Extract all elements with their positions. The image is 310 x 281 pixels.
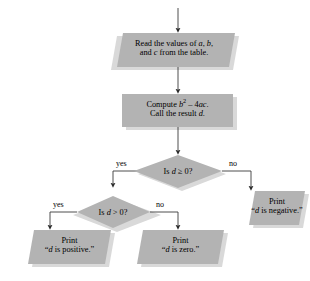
edge-label-decision2-yes: yes [53, 200, 64, 209]
node-output-negative-shape [249, 191, 305, 225]
flowchart-canvas [0, 0, 310, 281]
connector-decision2-yes [50, 212, 77, 227]
node-input-read-shape [117, 33, 235, 67]
node-output-positive-shape [28, 230, 111, 264]
node-decision-ge-zero-shape [134, 155, 222, 188]
edge-label-decision1-no: no [229, 159, 237, 168]
edge-label-decision2-no: no [156, 200, 164, 209]
edge-label-decision1-yes: yes [116, 159, 127, 168]
flowchart-diagram: Read the values of a, b, and c from the … [0, 0, 310, 281]
connector-decision1-yes [113, 171, 141, 185]
connector-decision1-no [222, 171, 251, 188]
node-process-compute-shape [122, 94, 233, 127]
node-output-zero-shape [137, 230, 224, 264]
